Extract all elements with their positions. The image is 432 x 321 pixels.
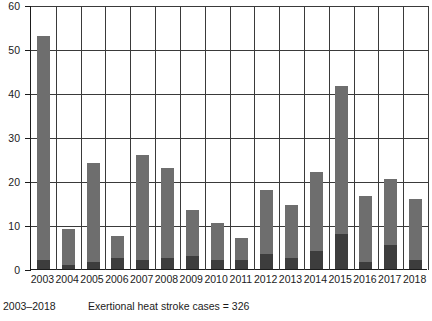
bar-lower-segment-2012 <box>260 254 273 269</box>
bar-2011 <box>235 238 248 269</box>
gridline-x-2011 <box>254 6 255 270</box>
x-axis-label-2006: 2006 <box>104 274 129 285</box>
bar-2009 <box>186 210 199 269</box>
bar-2014 <box>310 172 323 269</box>
y-axis-label-60: 60 <box>0 1 20 12</box>
bar-2016 <box>359 196 372 269</box>
caption-note: Exertional heat stroke cases = 326 <box>88 300 249 312</box>
plot-area <box>30 6 427 270</box>
bar-lower-segment-2014 <box>310 251 323 269</box>
x-axis-label-2010: 2010 <box>204 274 229 285</box>
x-axis-label-2015: 2015 <box>328 274 353 285</box>
bar-2013 <box>285 205 298 269</box>
gridline-x-2009 <box>205 6 206 270</box>
bar-2012 <box>260 190 273 269</box>
bar-2018 <box>409 199 422 269</box>
bar-lower-segment-2011 <box>235 260 248 269</box>
bar-lower-segment-2015 <box>335 234 348 269</box>
gridline-x-2005 <box>105 6 106 270</box>
gridline-x-2013 <box>304 6 305 270</box>
gridline-x-2012 <box>279 6 280 270</box>
gridline-x-2004 <box>81 6 82 270</box>
gridline-x-2014 <box>329 6 330 270</box>
bar-lower-segment-2003 <box>37 260 50 269</box>
x-axis-label-2009: 2009 <box>179 274 204 285</box>
y-tick-40 <box>25 94 31 95</box>
x-axis-label-2007: 2007 <box>129 274 154 285</box>
gridline-x-2016 <box>378 6 379 270</box>
chart-figure: 0102030405060 20032004200520062007200820… <box>0 0 432 321</box>
bar-lower-segment-2008 <box>161 258 174 269</box>
y-axis-label-10: 10 <box>0 221 20 232</box>
y-tick-50 <box>25 50 31 51</box>
x-axis-label-2008: 2008 <box>154 274 179 285</box>
gridline-x-2008 <box>180 6 181 270</box>
bar-lower-segment-2005 <box>87 262 100 269</box>
bar-lower-segment-2006 <box>111 258 124 269</box>
gridline-x-2015 <box>354 6 355 270</box>
bar-lower-segment-2017 <box>384 245 397 269</box>
y-axis-label-0: 0 <box>0 265 20 276</box>
y-tick-60 <box>25 6 31 7</box>
bar-lower-segment-2016 <box>359 262 372 269</box>
x-axis-label-2017: 2017 <box>377 274 402 285</box>
bar-2008 <box>161 168 174 269</box>
bar-lower-segment-2007 <box>136 260 149 269</box>
y-axis-label-20: 20 <box>0 177 20 188</box>
y-axis-label-40: 40 <box>0 89 20 100</box>
y-tick-10 <box>25 226 31 227</box>
gridline-x-2003 <box>56 6 57 270</box>
bar-2005 <box>87 163 100 269</box>
y-axis-label-30: 30 <box>0 133 20 144</box>
bar-2015 <box>335 86 348 269</box>
x-axis-label-2013: 2013 <box>278 274 303 285</box>
gridline-x-2010 <box>230 6 231 270</box>
y-tick-20 <box>25 182 31 183</box>
x-axis-label-2003: 2003 <box>30 274 55 285</box>
y-axis-label-50: 50 <box>0 45 20 56</box>
x-axis-label-2012: 2012 <box>253 274 278 285</box>
bar-lower-segment-2018 <box>409 260 422 269</box>
bar-lower-segment-2013 <box>285 258 298 269</box>
x-axis-label-2016: 2016 <box>353 274 378 285</box>
bar-lower-segment-2009 <box>186 256 199 269</box>
bar-2017 <box>384 179 397 269</box>
gridline-x-2006 <box>130 6 131 270</box>
bar-lower-segment-2004 <box>62 265 75 269</box>
bar-lower-segment-2010 <box>211 260 224 269</box>
bar-2010 <box>211 223 224 269</box>
y-tick-0 <box>25 270 31 271</box>
x-axis-label-2018: 2018 <box>402 274 427 285</box>
x-axis-label-2005: 2005 <box>80 274 105 285</box>
bar-2004 <box>62 229 75 269</box>
x-axis-label-2014: 2014 <box>303 274 328 285</box>
bar-2007 <box>136 155 149 269</box>
x-axis-label-2004: 2004 <box>55 274 80 285</box>
caption-year-range: 2003–2018 <box>3 300 85 312</box>
gridline-x-2017 <box>403 6 404 270</box>
gridline-x-2018 <box>428 6 429 270</box>
gridline-x-2007 <box>155 6 156 270</box>
bar-2003 <box>37 36 50 269</box>
y-tick-30 <box>25 138 31 139</box>
x-axis-label-2011: 2011 <box>229 274 254 285</box>
chart-caption: 2003–2018 Exertional heat stroke cases =… <box>3 300 249 312</box>
bar-2006 <box>111 236 124 269</box>
